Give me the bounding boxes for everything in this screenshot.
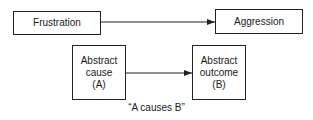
aggression-label: Aggression xyxy=(234,16,284,28)
frustration-label: Frustration xyxy=(33,17,81,29)
cause-line-1: Abstract xyxy=(81,55,118,67)
outcome-line-1: Abstract xyxy=(201,55,238,67)
diagram-caption: “A causes B” xyxy=(0,102,313,113)
aggression-box: Aggression xyxy=(215,9,303,34)
outcome-line-3: (B) xyxy=(212,79,225,91)
abstract-cause-box: Abstract cause (A) xyxy=(72,45,126,100)
abstract-outcome-box: Abstract outcome (B) xyxy=(192,45,246,100)
cause-line-2: cause xyxy=(86,67,113,79)
cause-line-3: (A) xyxy=(92,79,105,91)
outcome-line-2: outcome xyxy=(200,67,238,79)
frustration-box: Frustration xyxy=(13,11,101,35)
